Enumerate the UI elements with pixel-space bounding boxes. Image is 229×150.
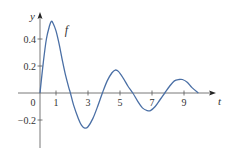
x-tick-label: 5	[118, 97, 123, 108]
x-axis-label: t	[218, 95, 222, 107]
tick-labels: 135790.40.2−0.20	[18, 34, 187, 126]
x-tick-label: 3	[86, 97, 91, 108]
x-tick-label: 9	[182, 97, 187, 108]
damped-oscillation-chart: 135790.40.2−0.20 f y t	[0, 0, 229, 150]
x-tick-label: 7	[150, 97, 155, 108]
origin-label: 0	[31, 97, 36, 108]
curve-f	[40, 21, 198, 128]
ticks	[38, 39, 185, 120]
y-tick-label: −0.2	[18, 115, 36, 126]
x-tick-label: 1	[54, 97, 59, 108]
y-tick-label: 0.2	[24, 61, 37, 72]
y-axis-label: y	[29, 10, 35, 22]
curve-label-f: f	[65, 23, 70, 37]
y-tick-label: 0.4	[24, 34, 37, 45]
